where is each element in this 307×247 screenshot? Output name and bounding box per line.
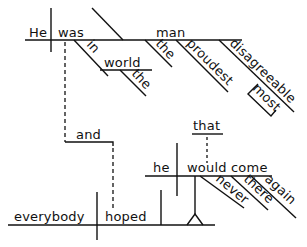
second-clause: everybody hoped xyxy=(8,176,215,240)
subject-everybody: everybody xyxy=(14,209,85,224)
connector-that: that xyxy=(193,118,220,133)
verb-would-come: would come xyxy=(187,160,268,175)
sentence-diagram: He was man in world the the proudest dis… xyxy=(0,0,307,247)
verb-was: was xyxy=(58,25,84,40)
subject-he: He xyxy=(29,25,47,40)
main-clause: He was man in world the the proudest dis… xyxy=(25,8,299,116)
conjunction-line xyxy=(65,142,113,146)
complement-divider xyxy=(92,8,123,40)
noun-clause: that he would come never there again xyxy=(145,118,299,218)
conjunction-and-text: and xyxy=(76,127,101,142)
stilt-base xyxy=(187,214,203,225)
verb-hoped: hoped xyxy=(105,209,147,224)
subject-he-clause: he xyxy=(153,160,170,175)
object-world: world xyxy=(104,55,141,70)
